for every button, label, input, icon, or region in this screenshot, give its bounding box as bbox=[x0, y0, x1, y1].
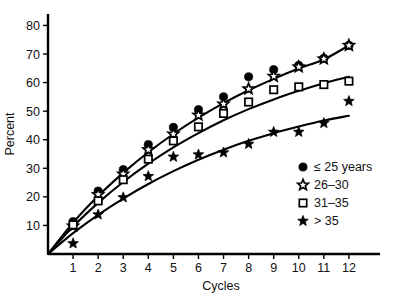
marker-open-square bbox=[270, 86, 277, 93]
marker-open-square bbox=[170, 137, 177, 144]
marker-filled-star bbox=[298, 215, 309, 225]
marker-open-square bbox=[69, 221, 76, 228]
series-points bbox=[68, 96, 354, 248]
marker-open-star bbox=[319, 53, 330, 63]
y-tick-label: 20 bbox=[26, 190, 40, 204]
y-axis: 1020304050607080 bbox=[26, 14, 48, 254]
marker-open-star bbox=[293, 61, 304, 71]
marker-open-square bbox=[299, 199, 306, 206]
marker-filled-star bbox=[68, 238, 79, 248]
legend-label: 26–30 bbox=[314, 178, 349, 192]
x-tick-label: 4 bbox=[145, 261, 152, 275]
marker-open-square bbox=[145, 155, 152, 162]
marker-open-square bbox=[320, 81, 327, 88]
legend-label: ≤ 25 years bbox=[314, 160, 372, 174]
marker-open-square bbox=[345, 77, 352, 84]
x-tick-label: 2 bbox=[95, 261, 102, 275]
data-points bbox=[68, 40, 354, 248]
legend-item: 31–35 bbox=[299, 196, 349, 210]
x-axis-title: Cycles bbox=[202, 279, 240, 293]
marker-filled-circle bbox=[245, 73, 253, 81]
x-tick-label: 3 bbox=[120, 261, 127, 275]
marker-open-star bbox=[268, 71, 279, 81]
marker-open-square bbox=[120, 176, 127, 183]
x-tick-label: 6 bbox=[195, 261, 202, 275]
x-tick-label: 9 bbox=[270, 261, 277, 275]
x-tick-label: 1 bbox=[70, 261, 77, 275]
marker-open-star bbox=[243, 83, 254, 93]
marker-open-square bbox=[245, 98, 252, 105]
y-axis-ticks: 1020304050607080 bbox=[26, 19, 48, 233]
marker-open-square bbox=[220, 110, 227, 117]
x-tick-label: 12 bbox=[342, 261, 356, 275]
y-tick-label: 60 bbox=[26, 76, 40, 90]
marker-open-star bbox=[298, 179, 309, 189]
x-tick-label: 8 bbox=[245, 261, 252, 275]
legend: ≤ 25 years26–3031–35> 35 bbox=[298, 160, 373, 228]
marker-filled-star bbox=[344, 96, 355, 106]
legend-label: 31–35 bbox=[314, 196, 349, 210]
marker-open-square bbox=[94, 197, 101, 204]
y-axis-title: Percent bbox=[3, 112, 17, 156]
marker-open-star bbox=[218, 98, 229, 108]
series-points bbox=[69, 41, 353, 225]
series-points bbox=[68, 40, 354, 231]
y-tick-label: 80 bbox=[26, 19, 40, 33]
marker-open-star bbox=[344, 40, 355, 50]
percent-vs-cycles-chart: 1020304050607080 123456789101112 Percent… bbox=[0, 0, 403, 299]
y-tick-label: 40 bbox=[26, 133, 40, 147]
legend-item: ≤ 25 years bbox=[299, 160, 372, 174]
x-tick-label: 11 bbox=[317, 261, 330, 275]
y-tick-label: 10 bbox=[26, 219, 40, 233]
y-tick-label: 70 bbox=[26, 48, 40, 62]
x-axis: 123456789101112 bbox=[48, 254, 380, 275]
x-axis-ticks: 123456789101112 bbox=[70, 254, 356, 275]
x-tick-label: 5 bbox=[170, 261, 177, 275]
marker-open-square bbox=[295, 83, 302, 90]
x-tick-label: 7 bbox=[220, 261, 227, 275]
marker-filled-circle bbox=[299, 163, 307, 171]
y-tick-label: 30 bbox=[26, 162, 40, 176]
chart-container: 1020304050607080 123456789101112 Percent… bbox=[0, 0, 403, 299]
y-tick-label: 50 bbox=[26, 105, 40, 119]
legend-item: 26–30 bbox=[298, 178, 349, 192]
legend-item: > 35 bbox=[298, 214, 339, 228]
marker-filled-star bbox=[168, 151, 179, 161]
marker-filled-star bbox=[143, 171, 154, 181]
legend-label: > 35 bbox=[314, 214, 339, 228]
x-tick-label: 10 bbox=[292, 261, 306, 275]
marker-open-square bbox=[195, 123, 202, 130]
